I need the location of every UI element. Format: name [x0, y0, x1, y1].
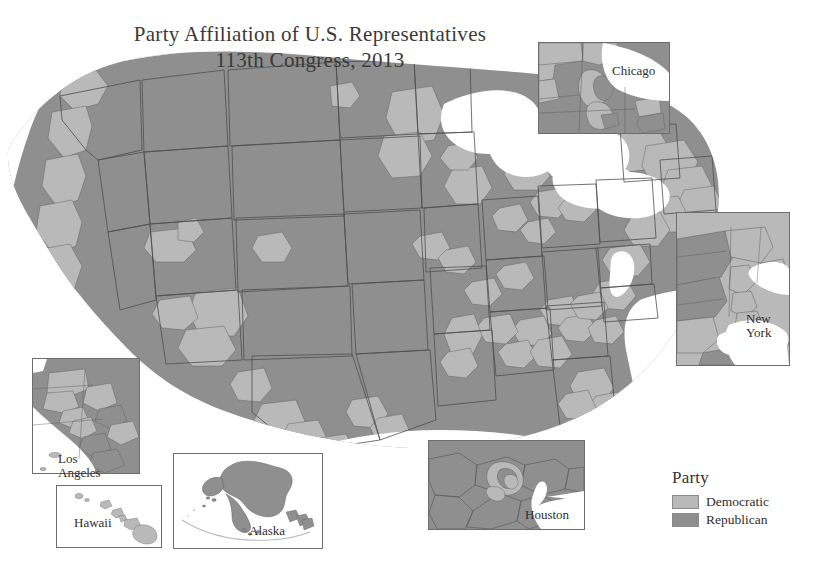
inset-map-hawaii [56, 485, 162, 548]
inset-map-houston [428, 440, 585, 530]
inset-map-new-york [676, 212, 790, 366]
legend-title: Party [672, 468, 822, 488]
title-line-1: Party Affiliation of U.S. Representative… [0, 22, 620, 48]
legend-item-democratic: Democratic [672, 494, 822, 510]
legend-swatch-republican [672, 513, 699, 527]
page-title: Party Affiliation of U.S. Representative… [0, 22, 620, 73]
legend-label-democratic: Democratic [706, 494, 769, 510]
legend: Party Democratic Republican [672, 468, 822, 530]
inset-map-alaska [173, 453, 323, 549]
legend-label-republican: Republican [706, 512, 767, 528]
inset-map-chicago [538, 42, 670, 134]
title-line-2: 113th Congress, 2013 [0, 48, 620, 74]
legend-item-republican: Republican [672, 512, 822, 528]
legend-swatch-democratic [672, 495, 699, 509]
inset-map-los-angeles [32, 358, 140, 474]
map-page: .rep { fill:#8f8f8f; stroke:#5e5e5e; str… [0, 0, 829, 571]
